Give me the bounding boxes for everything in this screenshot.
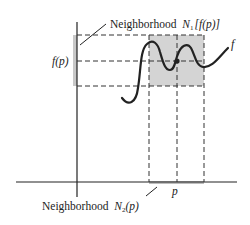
n1-label: Neighborhood N1[f(p)] <box>110 18 220 32</box>
n2-leader-line <box>146 187 157 196</box>
n2-label: Neighborhood N2(p) <box>42 200 139 214</box>
neighborhood-diagram: Neighborhood N1[f(p)] f(p) f p Neighborh… <box>0 0 250 225</box>
point-p-fp <box>174 58 179 63</box>
p-label: p <box>171 185 178 198</box>
function-label: f <box>231 37 236 51</box>
fp-label: f(p) <box>52 55 69 68</box>
